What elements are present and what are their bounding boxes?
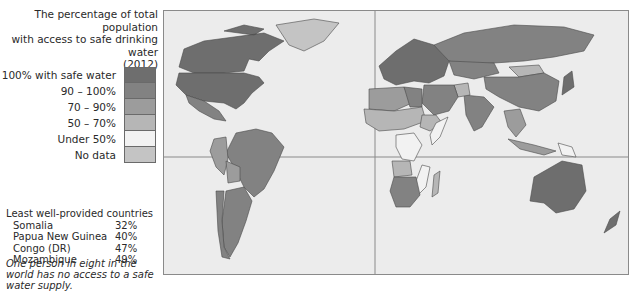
region-china [484,73,559,111]
legend-label: 50 – 70% [67,117,116,129]
least-provided-list: Least well-provided countries Somalia 32… [6,208,158,266]
region-usa [176,73,264,109]
title-line-1: The percentage of total population [0,8,158,33]
country-value: 32% [115,220,137,232]
legend-item: No data [0,147,158,163]
legend-label: No data [75,149,116,161]
country-value: 47% [115,243,137,255]
region-papua-new-guinea [558,143,576,157]
region-peru [210,137,228,175]
region-indonesia [508,139,556,155]
legend-swatch [124,83,156,99]
legend-swatch [124,67,156,83]
legend-label: 90 – 100% [61,85,116,97]
legend-item: Under 50% [0,131,158,147]
country-name: Papua New Guinea [13,231,107,243]
region-sahel-west-africa [364,107,426,131]
legend-item: 70 – 90% [0,99,158,115]
legend-swatch [124,115,156,131]
region-southeast-asia [504,109,526,137]
region-kazakhstan [449,61,499,79]
country-name: Somalia [13,220,53,232]
region-canada [179,25,284,73]
footnote: One person in eight in the world has no … [6,258,166,291]
region-argentina [222,187,252,257]
legend-swatch [124,147,156,163]
region-brazil [226,129,284,197]
region-middle-east [422,85,458,115]
list-item: Congo (DR) 47% [6,243,158,255]
legend-item: 90 – 100% [0,83,158,99]
world-map-svg [164,11,629,275]
legend-item: 100% with safe water [0,67,158,83]
title-line-2: with access to safe drinking water [0,33,158,58]
world-map [163,10,629,275]
region-greenland [276,19,339,51]
region-southern-africa [390,177,420,207]
legend-swatch [124,131,156,147]
legend: 100% with safe water 90 – 100% 70 – 90% … [0,67,158,163]
country-value: 40% [115,231,137,243]
region-angola [392,161,412,177]
region-india [464,95,494,131]
list-item: Papua New Guinea 40% [6,231,158,243]
legend-swatch [124,99,156,115]
region-new-zealand [604,211,620,233]
region-russia [434,25,594,65]
legend-label: 100% with safe water [2,69,116,81]
list-item: Somalia 32% [6,220,158,232]
legend-label: 70 – 90% [67,101,116,113]
region-japan [562,71,574,95]
least-provided-heading: Least well-provided countries [6,208,158,220]
country-name: Congo (DR) [13,243,71,255]
map-title: The percentage of total population with … [0,8,158,71]
legend-item: 50 – 70% [0,115,158,131]
region-madagascar [432,171,440,197]
region-australia [530,161,586,213]
legend-label: Under 50% [58,133,116,145]
